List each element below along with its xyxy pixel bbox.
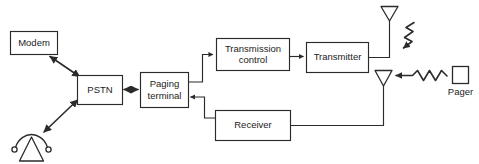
box-receiver[interactable]: Receiver (216, 111, 291, 141)
paging-system-diagram: Modem PSTN Paging terminal Transmission … (0, 0, 479, 164)
pager-device[interactable]: Pager (448, 67, 473, 97)
telephone-symbol (12, 135, 51, 162)
connection-antenna-receiver (290, 86, 384, 126)
box-transmission-control-label-line1: Transmission (225, 43, 281, 54)
box-modem[interactable]: Modem (11, 32, 58, 55)
rf-signal-downlink (404, 23, 415, 49)
pager-label: Pager (448, 86, 473, 97)
box-paging-terminal[interactable]: Paging terminal (141, 73, 189, 108)
box-transmission-control[interactable]: Transmission control (217, 39, 290, 71)
connection-paging-terminal-transmission-control (188, 55, 213, 83)
box-pstn[interactable]: PSTN (78, 76, 123, 105)
connection-receiver-paging-terminal (191, 97, 216, 118)
box-pstn-label: PSTN (87, 84, 112, 95)
box-receiver-label: Receiver (234, 119, 272, 130)
box-modem-label: Modem (18, 37, 50, 48)
box-paging-terminal-label-line1: Paging (150, 78, 180, 89)
box-paging-terminal-label-line2: terminal (148, 90, 182, 101)
connection-transmitter-antenna (368, 21, 390, 58)
receive-antenna (375, 71, 392, 87)
transmit-antenna (381, 7, 398, 22)
rf-signal-uplink (396, 71, 447, 81)
box-transmitter[interactable]: Transmitter (307, 43, 369, 73)
diagram-canvas: Modem PSTN Paging terminal Transmission … (0, 0, 479, 164)
connection-modem-pstn (50, 57, 80, 77)
box-transmission-control-label-line2: control (239, 54, 268, 65)
box-transmitter-label: Transmitter (314, 51, 362, 62)
connection-telephone-pstn (44, 100, 78, 132)
